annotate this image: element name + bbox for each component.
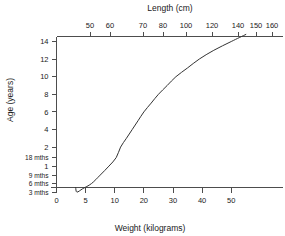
top-axis-tick-label-70: 70 (139, 21, 147, 30)
top-axis-tick-label-160: 160 (266, 21, 279, 30)
y-axis-tick-label-9-mths: 9 mths (29, 172, 49, 179)
x-axis-title: Weight (kilograms) (115, 223, 186, 233)
y-axis-tick-label-4: 4 (44, 125, 48, 134)
top-axis-tick-label-140: 140 (232, 21, 245, 30)
growth-curve-line (76, 34, 246, 192)
x-axis-tick-label-50: 50 (227, 196, 235, 205)
y-axis-tick-label-8: 8 (44, 90, 48, 99)
x-axis-tick-label-10: 10 (111, 196, 119, 205)
x-axis-tick-label-30: 30 (169, 196, 177, 205)
y-axis-tick-label-1: 1 (44, 162, 48, 171)
y-axis-tick-label-12: 12 (40, 55, 48, 64)
top-axis-tick-label-80: 80 (159, 21, 167, 30)
y-axis-tick-label-6: 6 (44, 108, 48, 117)
y-axis-tick-label-6-mths: 6 mths (29, 180, 49, 187)
x-axis-tick-label-20: 20 (140, 196, 148, 205)
y-axis-tick-label-18-mths: 18 mths (25, 154, 49, 161)
y-axis-tick-label-14: 14 (40, 37, 48, 46)
chart-canvas: 50607080100120140150160Length (cm)051020… (0, 0, 285, 236)
growth-chart: 50607080100120140150160Length (cm)051020… (0, 0, 285, 236)
top-axis-title: Length (cm) (147, 3, 193, 13)
top-axis-tick-label-100: 100 (180, 21, 193, 30)
x-axis-tick-label-0: 0 (54, 196, 58, 205)
top-axis-tick-label-60: 60 (106, 21, 114, 30)
x-axis-tick-label-5: 5 (84, 196, 88, 205)
top-axis-tick-label-120: 120 (206, 21, 219, 30)
top-axis-tick-label-150: 150 (250, 21, 263, 30)
top-axis-tick-label-50: 50 (86, 21, 94, 30)
y-axis-tick-label-3-mths: 3 mths (29, 189, 49, 196)
x-axis-tick-label-40: 40 (198, 196, 206, 205)
y-axis-title: Age (years) (5, 78, 15, 122)
y-axis-tick-label-2: 2 (44, 143, 48, 152)
y-axis-tick-label-10: 10 (40, 72, 48, 81)
